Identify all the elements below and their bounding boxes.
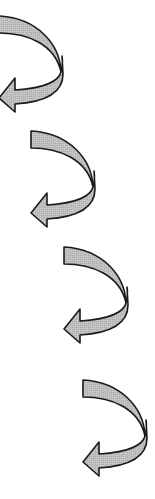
curved-arrow-3 xyxy=(62,245,132,345)
curved-arrow-icon xyxy=(29,129,99,229)
curved-arrow-icon xyxy=(62,245,132,345)
curved-arrow-2 xyxy=(29,129,99,229)
curved-arrow-1 xyxy=(0,14,67,114)
curved-arrow-icon xyxy=(81,378,151,478)
curved-arrow-icon xyxy=(0,14,67,114)
curved-arrow-4 xyxy=(81,378,151,478)
